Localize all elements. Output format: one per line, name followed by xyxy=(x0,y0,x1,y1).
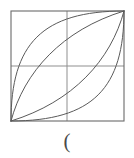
caption-text: ( xyxy=(64,131,71,152)
caption-row: ( xyxy=(0,124,134,158)
figure-container: ( xyxy=(0,0,134,158)
geometry-diagram xyxy=(0,0,134,134)
